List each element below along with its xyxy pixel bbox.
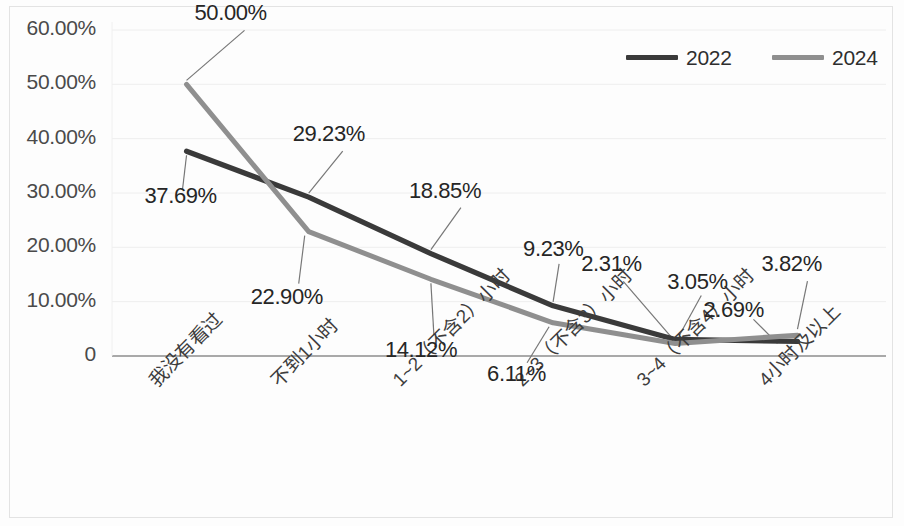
data-label-2022-4: 3.05% <box>667 269 727 295</box>
leader-line <box>553 264 559 302</box>
data-label-2022-1: 29.23% <box>293 121 365 147</box>
data-label-2024-4: 2.31% <box>581 251 641 277</box>
data-label-2024-5: 3.82% <box>761 251 821 277</box>
legend-label-2024: 2024 <box>832 46 878 70</box>
y-tick-label: 30.00% <box>0 179 96 203</box>
data-label-2024-2: 14.12% <box>385 337 457 363</box>
y-tick-label: 0 <box>0 342 96 366</box>
leader-line <box>299 236 305 284</box>
data-label-2024-3: 6.11% <box>487 361 546 387</box>
data-label-2024-0: 50.00% <box>195 0 267 26</box>
y-tick-label: 20.00% <box>0 233 96 257</box>
leader-line <box>187 30 245 80</box>
data-label-2022-3: 9.23% <box>523 236 583 262</box>
data-label-2022-2: 18.85% <box>409 178 481 204</box>
legend-label-2022: 2022 <box>686 46 732 70</box>
data-label-2024-1: 22.90% <box>251 284 323 310</box>
chart-page: 010.00%20.00%30.00%40.00%50.00%60.00% 我没… <box>0 0 904 526</box>
legend-swatch-2024 <box>772 55 824 60</box>
y-tick-label: 60.00% <box>0 16 96 40</box>
leader-line <box>309 151 343 193</box>
y-tick-label: 50.00% <box>0 70 96 94</box>
y-tick-label: 40.00% <box>0 125 96 149</box>
data-label-2022-0: 37.69% <box>145 183 217 209</box>
y-tick-label: 10.00% <box>0 288 96 312</box>
legend-swatch-2022 <box>626 55 678 60</box>
gridlines-group <box>112 30 886 356</box>
data-label-2022-5: 2.69% <box>703 297 763 323</box>
leader-line <box>431 208 461 250</box>
